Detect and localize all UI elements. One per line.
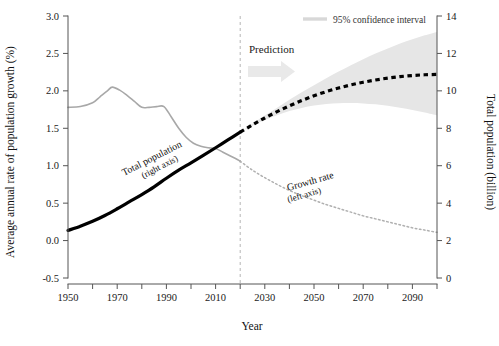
y2-tick-label-5: 10 xyxy=(446,85,457,96)
x-tick-label-5: 2050 xyxy=(304,292,325,303)
population-projection-chart: -0.50.00.51.01.52.02.53.0024681012141950… xyxy=(0,0,499,346)
y-axis-title: Average annual rate of population growth… xyxy=(4,46,17,258)
y2-tick-label-4: 8 xyxy=(446,123,451,134)
y2-tick-label-6: 12 xyxy=(446,48,457,59)
y2-tick-label-7: 14 xyxy=(446,11,457,22)
x-axis-title: Year xyxy=(241,320,262,332)
y-tick-label-5: 2.0 xyxy=(46,85,59,96)
series-path-1 xyxy=(240,161,437,232)
y-tick-label-2: 0.5 xyxy=(46,198,59,209)
x-tick-label-4: 2030 xyxy=(254,292,275,303)
x-tick-label-6: 2070 xyxy=(353,292,374,303)
x-tick-label-2: 1990 xyxy=(156,292,177,303)
y2-axis-title: Total population (billion) xyxy=(484,94,497,210)
y2-tick-label-3: 6 xyxy=(446,160,451,171)
legend: 95% confidence interval xyxy=(303,15,426,25)
y-tick-label-6: 2.5 xyxy=(46,48,59,59)
legend-label-confidence-interval: 95% confidence interval xyxy=(333,15,426,25)
total-population-series-label: Total population (right axis) xyxy=(120,138,189,187)
prediction-label: Prediction xyxy=(249,43,295,55)
y-tick-label-7: 3.0 xyxy=(46,11,59,22)
y2-tick-label-1: 2 xyxy=(446,235,451,246)
y-tick-label-1: 0.0 xyxy=(46,235,59,246)
y2-tick-label-2: 4 xyxy=(446,198,452,209)
x-tick-label-1: 1970 xyxy=(107,292,128,303)
prediction-arrow-icon xyxy=(248,61,295,82)
x-tick-label-7: 2090 xyxy=(402,292,423,303)
x-tick-label-3: 2010 xyxy=(205,292,226,303)
chart-canvas: -0.50.00.51.01.52.02.53.0024681012141950… xyxy=(0,0,499,346)
y2-tick-label-0: 0 xyxy=(446,273,451,284)
y-tick-label-4: 1.5 xyxy=(46,123,59,134)
series-path-2 xyxy=(68,132,240,230)
x-tick-label-0: 1950 xyxy=(58,292,79,303)
y-tick-label-0: -0.5 xyxy=(42,273,59,284)
prediction-annotation: Prediction xyxy=(248,43,295,82)
y-tick-label-3: 1.0 xyxy=(46,160,59,171)
